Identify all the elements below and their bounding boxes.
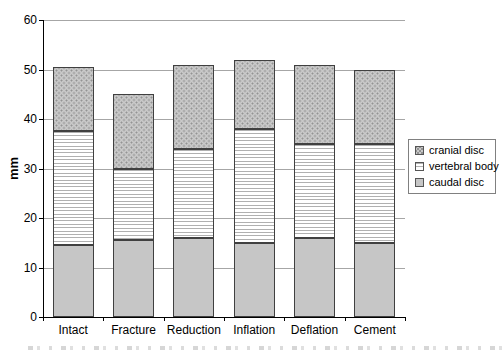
x-category-label-reduction: Reduction [164, 323, 224, 337]
legend: cranial discvertebral bodycaudal disc [408, 139, 496, 194]
legend-label-vertebral-body: vertebral body [429, 161, 499, 172]
bar-reduction-caudal-disc [173, 238, 214, 317]
legend-marker-caudal-disc [415, 178, 424, 187]
y-tick-label-0: 0 [13, 311, 37, 323]
x-category-label-inflation: Inflation [224, 323, 284, 337]
legend-item-cranial-disc: cranial disc [409, 142, 495, 158]
y-axis-tick-50 [39, 70, 43, 71]
bar-deflation-caudal-disc [294, 238, 335, 317]
bar-fracture-cranial-disc [113, 94, 154, 168]
x-category-label-cement: Cement [345, 323, 405, 337]
bar-inflation-vertebral-body [234, 129, 275, 243]
gridline-40 [43, 119, 405, 120]
gridline-20 [43, 218, 405, 219]
x-axis-tick-1 [103, 318, 104, 321]
y-axis-tick-40 [39, 119, 43, 120]
y-tick-label-50: 50 [13, 64, 37, 76]
bar-cement-cranial-disc [354, 70, 395, 144]
x-axis-tick-4 [284, 318, 285, 321]
bar-fracture-vertebral-body [113, 169, 154, 241]
legend-marker-cranial-disc [415, 146, 424, 155]
y-tick-label-60: 60 [13, 14, 37, 26]
bar-deflation-vertebral-body [294, 144, 335, 238]
x-axis-tick-0 [43, 318, 44, 321]
gridline-30 [43, 169, 405, 170]
y-tick-label-20: 20 [13, 212, 37, 224]
legend-label-caudal-disc: caudal disc [429, 177, 484, 188]
x-axis-tick-5 [345, 318, 346, 321]
legend-item-vertebral-body: vertebral body [409, 158, 495, 174]
bar-fracture-caudal-disc [113, 240, 154, 317]
bar-inflation-cranial-disc [234, 60, 275, 129]
x-category-label-deflation: Deflation [284, 323, 344, 337]
gridline-50 [43, 70, 405, 71]
y-axis-tick-20 [39, 218, 43, 219]
y-tick-label-30: 30 [13, 163, 37, 175]
bar-reduction-cranial-disc [173, 65, 214, 149]
y-axis-line [43, 20, 44, 317]
bar-inflation-caudal-disc [234, 243, 275, 317]
bar-intact-caudal-disc [53, 245, 94, 317]
x-axis-tick-6 [405, 318, 406, 321]
bar-deflation-cranial-disc [294, 65, 335, 144]
x-axis-tick-2 [164, 318, 165, 321]
y-axis-tick-30 [39, 169, 43, 170]
x-axis-tick-3 [224, 318, 225, 321]
y-axis-tick-10 [39, 268, 43, 269]
legend-item-caudal-disc: caudal disc [409, 175, 495, 191]
bar-intact-vertebral-body [53, 131, 94, 245]
y-tick-label-10: 10 [13, 262, 37, 274]
stacked-bar-chart: mm IntactFractureReductionInflationDefla… [0, 0, 503, 351]
x-category-label-fracture: Fracture [103, 323, 163, 337]
legend-marker-vertebral-body [415, 162, 424, 171]
bar-intact-cranial-disc [53, 67, 94, 131]
bar-cement-vertebral-body [354, 144, 395, 243]
gridline-60 [43, 20, 405, 21]
y-axis-tick-60 [39, 20, 43, 21]
bar-cement-caudal-disc [354, 243, 395, 317]
x-category-label-intact: Intact [43, 323, 103, 337]
y-tick-label-40: 40 [13, 113, 37, 125]
gridline-10 [43, 268, 405, 269]
bar-reduction-vertebral-body [173, 149, 214, 238]
legend-label-cranial-disc: cranial disc [429, 145, 484, 156]
cropped-caption-fragment [28, 346, 503, 350]
